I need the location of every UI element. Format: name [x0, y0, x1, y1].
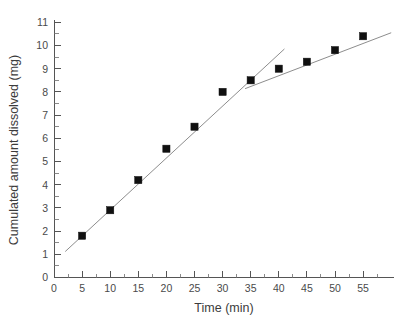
- y-tick-label: 3: [42, 202, 48, 214]
- x-axis-tick-labels: 0 5 10 15 20 25 30 35 40 45 50 55: [51, 282, 369, 294]
- data-point-marker: 30, 8: [219, 88, 226, 95]
- x-tick-label: 35: [245, 282, 257, 294]
- x-tick-label: 55: [357, 282, 369, 294]
- y-axis-tick-labels: 0 1 2 3 4 5 6 7 8 9 10 11: [36, 16, 48, 283]
- data-point-marker: 10, 2.9: [107, 207, 114, 214]
- x-axis-title: Time (min): [194, 301, 253, 315]
- y-tick-label: 4: [42, 179, 48, 191]
- y-axis-title: Cumulated amount dissolved (mg): [7, 55, 21, 245]
- data-point-marker: 25, 6.5: [191, 123, 198, 130]
- scatter-plot-svg: 0 1 2 3 4 5 6 7 8 9 10 11 0 5 10 15 20 2…: [0, 0, 402, 329]
- x-tick-label: 50: [329, 282, 341, 294]
- y-tick-label: 6: [42, 132, 48, 144]
- data-points-group: 5, 1.810, 2.915, 4.220, 5.5525, 6.530, 8…: [79, 33, 367, 240]
- y-tick-label: 2: [42, 225, 48, 237]
- y-tick-label: 10: [36, 39, 48, 51]
- x-tick-label: 25: [189, 282, 201, 294]
- data-point-marker: 50, 9.8: [331, 47, 338, 54]
- y-tick-label: 9: [42, 63, 48, 75]
- x-tick-label: 45: [301, 282, 313, 294]
- y-tick-label: 7: [42, 109, 48, 121]
- y-tick-label: 1: [42, 248, 48, 260]
- plateau-phase-linear-fit: [245, 33, 391, 89]
- y-tick-label: 8: [42, 86, 48, 98]
- x-tick-label: 20: [161, 282, 173, 294]
- data-point-marker: 35, 8.5: [247, 77, 254, 84]
- chart-figure: 0 1 2 3 4 5 6 7 8 9 10 11 0 5 10 15 20 2…: [0, 0, 402, 329]
- fit-lines-group: [65, 33, 391, 252]
- data-point-marker: 5, 1.8: [79, 232, 86, 239]
- x-tick-label: 30: [217, 282, 229, 294]
- data-point-marker: 15, 4.2: [135, 176, 142, 183]
- y-tick-label: 0: [42, 271, 48, 283]
- x-tick-label: 15: [132, 282, 144, 294]
- y-tick-label: 11: [37, 16, 48, 28]
- data-point-marker: 55, 10.4: [360, 33, 367, 40]
- data-point-marker: 45, 9.3: [303, 58, 310, 65]
- x-tick-label: 10: [104, 282, 116, 294]
- data-point-marker: 40, 9: [275, 65, 282, 72]
- x-tick-label: 40: [273, 282, 285, 294]
- x-tick-label: 0: [51, 282, 57, 294]
- x-tick-label: 5: [79, 282, 85, 294]
- y-tick-label: 5: [42, 155, 48, 167]
- data-point-marker: 20, 5.55: [163, 145, 170, 152]
